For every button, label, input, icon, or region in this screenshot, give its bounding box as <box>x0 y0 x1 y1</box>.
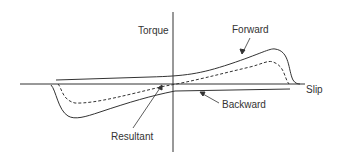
forward-arrow <box>240 38 250 54</box>
slip-label: Slip <box>306 84 323 95</box>
forward-curve <box>56 49 300 84</box>
torque-slip-diagram: Torque Forward Slip Backward Resultant <box>0 0 337 162</box>
resultant-label: Resultant <box>111 131 153 142</box>
forward-label: Forward <box>232 24 269 35</box>
backward-label: Backward <box>222 99 266 110</box>
torque-label: Torque <box>138 25 169 36</box>
resultant-arrow <box>133 85 162 128</box>
backward-arrow <box>200 92 219 103</box>
